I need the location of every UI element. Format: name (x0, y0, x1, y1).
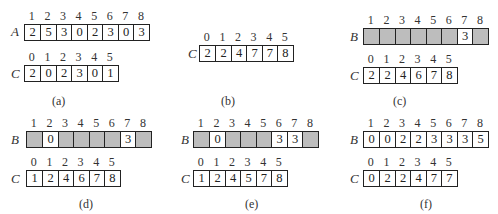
index-label: 2 (55, 50, 71, 65)
array-cell: 7 (426, 68, 441, 83)
index-label: 8 (135, 116, 151, 131)
index-label: 7 (457, 13, 473, 28)
index-label: 3 (394, 116, 410, 131)
empty-cell (73, 132, 88, 147)
index-label: 3 (394, 13, 410, 28)
empty-cell (27, 132, 42, 147)
array-c: 224678 (363, 67, 458, 84)
array-cell: 2 (87, 25, 102, 40)
index-label: 1 (379, 52, 395, 67)
index-label: 8 (133, 9, 149, 24)
array-c-indices: 012345 (199, 30, 293, 45)
index-label: 7 (457, 116, 473, 131)
index-label: 3 (246, 30, 262, 45)
index-label: 0 (363, 52, 379, 67)
array-cell: 2 (42, 171, 57, 186)
index-label: 4 (425, 52, 441, 67)
array-cell: 0 (40, 66, 55, 81)
index-label: 3 (57, 116, 73, 131)
array-cell: 2 (410, 132, 425, 147)
array-cell: 5 (40, 25, 55, 40)
index-label: 2 (394, 155, 410, 170)
array-cell: 2 (25, 25, 40, 40)
index-label: 0 (199, 30, 215, 45)
array-c: 224778 (199, 45, 294, 62)
array-c-indices: 012345 (363, 52, 457, 67)
array-cell: 0 (118, 25, 133, 40)
index-label: 5 (425, 116, 441, 131)
index-label: 0 (363, 155, 379, 170)
index-label: 3 (224, 116, 240, 131)
index-label: 2 (209, 116, 225, 131)
index-label: 4 (425, 155, 441, 170)
array-name-label: B (11, 132, 19, 148)
array-cell: 8 (271, 171, 286, 186)
array-cell: 0 (379, 132, 394, 147)
index-label: 1 (42, 155, 58, 170)
array-cell: 3 (457, 29, 472, 44)
index-label: 4 (71, 9, 87, 24)
array-cell: 4 (395, 68, 410, 83)
array-cell: 3 (71, 66, 86, 81)
array-b: 3 (363, 28, 489, 45)
array-a-indices: 12345678 (24, 9, 149, 24)
array-cell: 0 (87, 66, 102, 81)
array-cell: 3 (120, 132, 135, 147)
index-label: 1 (379, 155, 395, 170)
index-label: 1 (193, 116, 209, 131)
empty-cell (426, 29, 441, 44)
empty-cell (410, 29, 425, 44)
array-cell: 1 (27, 171, 42, 186)
array-cell: 6 (410, 68, 425, 83)
array-cell: 2 (364, 68, 379, 83)
index-label: 3 (73, 155, 89, 170)
panel-caption: (f) (420, 197, 432, 212)
index-label: 1 (209, 155, 225, 170)
index-label: 1 (40, 50, 56, 65)
index-label: 0 (193, 155, 209, 170)
array-cell: 7 (426, 171, 441, 186)
index-label: 3 (240, 155, 256, 170)
index-label: 4 (73, 116, 89, 131)
index-label: 3 (55, 9, 71, 24)
array-b: 03 (26, 131, 152, 148)
panel-caption: (e) (245, 197, 258, 212)
array-b: 033 (193, 131, 319, 148)
array-a: 25302303 (24, 24, 150, 41)
array-b: 00223335 (363, 131, 489, 148)
array-cell: 2 (379, 68, 394, 83)
index-label: 1 (215, 30, 231, 45)
index-label: 3 (410, 155, 426, 170)
array-cell: 3 (271, 132, 286, 147)
index-label: 8 (472, 13, 488, 28)
empty-cell (194, 132, 209, 147)
array-b-indices: 12345678 (193, 116, 318, 131)
index-label: 2 (379, 116, 395, 131)
index-label: 7 (287, 116, 303, 131)
array-name-label: C (350, 171, 359, 187)
index-label: 5 (271, 155, 287, 170)
index-label: 2 (57, 155, 73, 170)
index-label: 1 (363, 13, 379, 28)
index-label: 8 (302, 116, 318, 131)
index-label: 4 (261, 30, 277, 45)
array-name-label: C (350, 68, 359, 84)
empty-cell (58, 132, 73, 147)
empty-cell (256, 132, 271, 147)
empty-cell (302, 132, 317, 147)
index-label: 4 (240, 116, 256, 131)
array-cell: 2 (25, 66, 40, 81)
panel-caption: (d) (79, 197, 93, 212)
empty-cell (472, 29, 487, 44)
index-label: 5 (255, 116, 271, 131)
array-cell: 8 (277, 46, 292, 61)
array-c: 124578 (193, 170, 288, 187)
array-c-indices: 012345 (24, 50, 118, 65)
index-label: 7 (118, 9, 134, 24)
empty-cell (104, 132, 119, 147)
array-cell: 2 (379, 171, 394, 186)
index-label: 2 (379, 13, 395, 28)
index-label: 6 (271, 116, 287, 131)
index-label: 1 (24, 9, 40, 24)
array-cell: 3 (133, 25, 148, 40)
